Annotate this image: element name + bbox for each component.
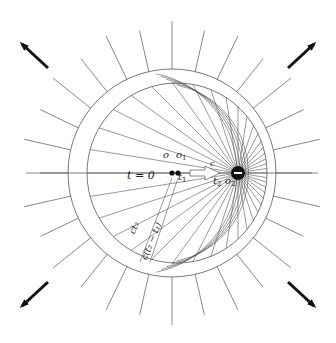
outer-field-line xyxy=(81,59,107,92)
label-t1: t1 xyxy=(178,172,187,184)
inner-field-line xyxy=(211,90,238,173)
outer-field-line xyxy=(106,36,127,79)
label-t0: t = 0 xyxy=(127,170,155,181)
inner-field-line xyxy=(113,109,238,173)
outer-field-line xyxy=(273,196,320,207)
outer-field-line xyxy=(266,110,304,128)
outer-field-line xyxy=(40,218,78,236)
outer-field-line xyxy=(106,267,127,310)
outer-field-line xyxy=(24,139,71,150)
outer-field-line xyxy=(140,274,149,315)
label-t2: t2 xyxy=(213,176,222,188)
label-c: c xyxy=(210,160,214,168)
diagram-canvas: o o1 t = 0 t1 c t2 o2 ct₂ c(t₂ − t₁) xyxy=(0,0,336,343)
outer-field-line xyxy=(53,78,91,108)
outer-field-line xyxy=(253,78,291,108)
outer-field-line xyxy=(195,31,204,72)
outer-field-line xyxy=(217,36,238,79)
outer-field-line xyxy=(53,238,91,268)
field-lines-svg xyxy=(0,0,336,343)
outer-field-line xyxy=(266,218,304,236)
outer-field-line xyxy=(195,274,204,315)
inner-field-line xyxy=(152,87,238,173)
outer-field-line xyxy=(81,254,107,287)
outer-field-line xyxy=(237,59,263,92)
label-o1: o1 xyxy=(176,150,187,162)
outer-field-line xyxy=(140,31,149,72)
point-o xyxy=(169,170,174,175)
label-o: o xyxy=(163,150,169,160)
outer-field-line xyxy=(273,139,320,150)
outer-field-line xyxy=(253,238,291,268)
outer-field-line xyxy=(24,196,71,207)
charge-minus-sign xyxy=(234,172,242,174)
outer-field-line xyxy=(237,254,263,287)
outer-field-line xyxy=(40,110,78,128)
outer-field-line xyxy=(217,267,238,310)
